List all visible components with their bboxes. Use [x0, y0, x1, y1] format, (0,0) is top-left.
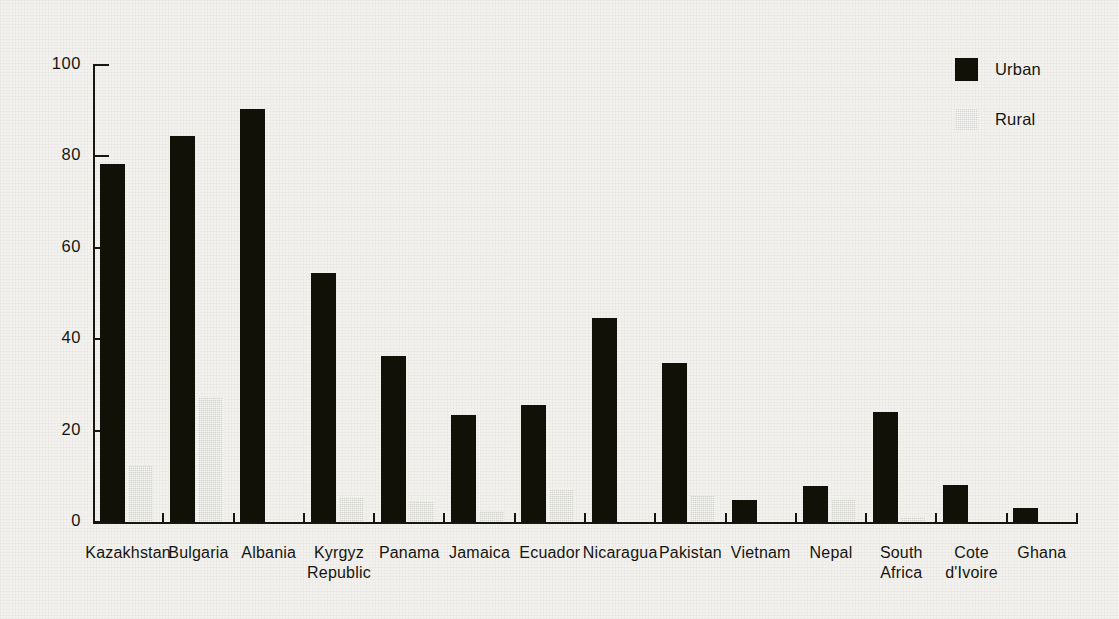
- bar-urban: [592, 318, 617, 522]
- legend-item-rural[interactable]: Rural: [955, 107, 1115, 131]
- y-axis-tick: [93, 155, 109, 157]
- x-axis-category-label: Ghana: [999, 543, 1085, 563]
- legend-label: Rural: [995, 110, 1035, 129]
- bar-urban: [240, 109, 265, 522]
- bar-rural: [549, 489, 574, 522]
- bar-rural: [198, 398, 223, 522]
- y-axis-tick-label: 100: [0, 54, 81, 73]
- x-axis-tick: [1006, 513, 1008, 524]
- x-axis-tick: [1076, 513, 1078, 524]
- y-axis-tick-label: 80: [0, 145, 81, 164]
- chart-page: 100806040200 KazakhstanBulgariaAlbaniaKy…: [0, 0, 1119, 619]
- bar-rural: [901, 517, 926, 522]
- y-axis-tick-label: 60: [0, 237, 81, 256]
- x-axis-tick: [584, 513, 586, 524]
- bar-urban: [1013, 508, 1038, 522]
- legend-label: Urban: [995, 60, 1041, 79]
- x-axis-tick: [303, 513, 305, 524]
- bar-rural: [409, 502, 434, 522]
- bar-urban: [100, 164, 125, 522]
- chart-legend: UrbanRural: [955, 57, 1115, 157]
- bar-urban: [873, 412, 898, 522]
- bar-urban: [943, 485, 968, 522]
- plot-area: [93, 65, 1077, 522]
- bar-urban: [170, 136, 195, 522]
- legend-item-urban[interactable]: Urban: [955, 57, 1115, 81]
- x-axis-tick: [373, 513, 375, 524]
- x-axis-tick: [865, 513, 867, 524]
- x-axis-tick: [233, 513, 235, 524]
- bar-urban: [381, 356, 406, 522]
- x-axis-tick: [162, 513, 164, 524]
- y-axis-tick: [93, 64, 109, 66]
- x-axis-tick: [725, 513, 727, 524]
- bar-rural: [690, 496, 715, 523]
- bar-urban: [662, 363, 687, 522]
- x-axis-tick: [935, 513, 937, 524]
- y-axis-line: [93, 65, 95, 522]
- bar-rural: [831, 500, 856, 522]
- x-axis-tick: [514, 513, 516, 524]
- y-axis-tick-label: 0: [0, 511, 81, 530]
- bar-urban: [311, 273, 336, 522]
- x-axis-tick: [654, 513, 656, 524]
- y-axis-tick-label: 40: [0, 328, 81, 347]
- bar-rural: [479, 511, 504, 522]
- bar-urban: [732, 500, 757, 522]
- bar-urban: [803, 486, 828, 522]
- bar-urban: [521, 405, 546, 522]
- x-axis-tick: [443, 513, 445, 524]
- x-axis-tick: [795, 513, 797, 524]
- y-axis-tick-label: 20: [0, 420, 81, 439]
- bar-rural: [128, 466, 153, 522]
- legend-swatch-rural: [955, 108, 978, 131]
- legend-swatch-urban: [955, 58, 978, 81]
- bar-rural: [339, 497, 364, 522]
- bar-urban: [451, 415, 476, 522]
